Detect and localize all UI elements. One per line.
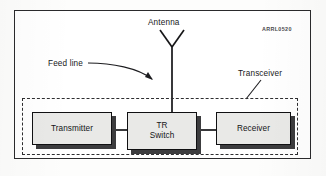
- figure-screenshot: Antenna Feed line Transceiver ARRL0520 T…: [0, 0, 326, 176]
- block-transmitter: Transmitter: [32, 112, 112, 145]
- antenna-label: Antenna: [148, 18, 180, 27]
- block-receiver-label: Receiver: [216, 112, 291, 145]
- block-receiver: Receiver: [216, 112, 291, 145]
- transceiver-leader-line: [246, 80, 261, 99]
- block-tr-switch-label-line1: TR: [156, 121, 167, 131]
- v-dipole-antenna-icon: [160, 30, 184, 47]
- block-tr-switch: TR Switch: [127, 112, 197, 150]
- feed-line-label: Feed line: [48, 59, 83, 68]
- feed-line-leader: [88, 63, 153, 80]
- arrl-figure-id-watermark: ARRL0520: [262, 26, 292, 32]
- transceiver-label: Transceiver: [238, 69, 282, 78]
- block-tr-switch-label: TR Switch: [127, 112, 197, 150]
- block-transmitter-label: Transmitter: [32, 112, 112, 145]
- block-tr-switch-label-line2: Switch: [150, 131, 175, 141]
